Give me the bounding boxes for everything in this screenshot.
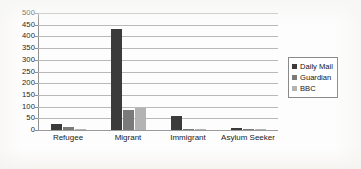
y-tick-label-0: 0 (5, 126, 35, 134)
legend-swatch-icon (292, 86, 297, 91)
y-tick-label-50: 50 (5, 114, 35, 122)
bar-chart: 500450400350300250200150100500 RefugeeMi… (0, 0, 361, 169)
y-tick-mark-200 (35, 83, 38, 84)
y-tick-label-100: 100 (5, 103, 35, 111)
bar-guardian-migrant (123, 110, 134, 130)
y-tick-label-150: 150 (5, 91, 35, 99)
y-tick-mark-100 (35, 107, 38, 108)
x-tick-label-migrant: Migrant (98, 133, 158, 143)
x-tick-label-refugee: Refugee (38, 133, 98, 143)
y-tick-mark-450 (35, 25, 38, 26)
bar-daily-mail-migrant (111, 29, 122, 130)
y-tick-mark-0 (35, 130, 38, 131)
y-tick-mark-50 (35, 118, 38, 119)
y-tick-label-200: 200 (5, 79, 35, 87)
y-tick-label-250: 250 (5, 68, 35, 76)
legend-swatch-icon (292, 75, 297, 80)
gridline-0 (38, 130, 278, 131)
y-tick-label-300: 300 (5, 56, 35, 64)
x-tick-label-immigrant: Immigrant (158, 133, 218, 143)
legend-item-daily-mail[interactable]: Daily Mail (292, 61, 333, 72)
chart-legend: Daily MailGuardianBBC (288, 57, 338, 98)
bar-bbc-immigrant (195, 129, 206, 130)
bar-guardian-refugee (63, 127, 74, 131)
y-tick-label-400: 400 (5, 32, 35, 40)
bar-group-refugee (38, 13, 98, 130)
legend-item-guardian[interactable]: Guardian (292, 72, 333, 83)
y-tick-mark-250 (35, 72, 38, 73)
legend-swatch-icon (292, 64, 297, 69)
x-axis-labels: RefugeeMigrantImmigrantAsylum Seeker (38, 133, 278, 147)
legend-label: Daily Mail (300, 62, 333, 71)
bar-guardian-immigrant (183, 129, 194, 130)
y-tick-mark-400 (35, 36, 38, 37)
legend-label: Guardian (300, 73, 331, 82)
legend-label: BBC (300, 84, 316, 93)
bar-group-asylum-seeker (218, 13, 278, 130)
bar-daily-mail-asylum-seeker (231, 128, 242, 130)
y-tick-mark-350 (35, 48, 38, 49)
y-tick-label-500: 500 (5, 9, 35, 17)
legend-items: Daily MailGuardianBBC (292, 61, 333, 94)
bar-group-migrant (98, 13, 158, 130)
legend-item-bbc[interactable]: BBC (292, 83, 333, 94)
y-tick-mark-150 (35, 95, 38, 96)
y-tick-mark-500 (35, 13, 38, 14)
bar-daily-mail-refugee (51, 124, 62, 130)
y-tick-label-350: 350 (5, 44, 35, 52)
y-tick-mark-300 (35, 60, 38, 61)
bar-daily-mail-immigrant (171, 116, 182, 130)
plot-area (38, 13, 278, 130)
bar-group-immigrant (158, 13, 218, 130)
x-tick-label-asylum-seeker: Asylum Seeker (218, 133, 278, 143)
bar-guardian-asylum-seeker (243, 129, 254, 130)
bar-bbc-refugee (75, 129, 86, 130)
bar-bbc-migrant (135, 108, 146, 130)
y-axis-labels: 500450400350300250200150100500 (2, 13, 35, 130)
y-tick-label-450: 450 (5, 21, 35, 29)
bar-bbc-asylum-seeker (255, 129, 266, 130)
